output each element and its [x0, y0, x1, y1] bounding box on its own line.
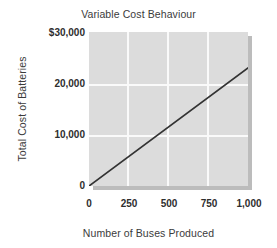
- x-axis-title: Number of Buses Produced: [36, 227, 261, 239]
- x-tick-label-1000: 1,000: [226, 198, 272, 209]
- variable-cost-behaviour-chart: Variable Cost Behaviour Total Cost of Ba…: [0, 0, 277, 248]
- x-axis-tick-labels: 0 250 500 750 1,000: [0, 0, 277, 248]
